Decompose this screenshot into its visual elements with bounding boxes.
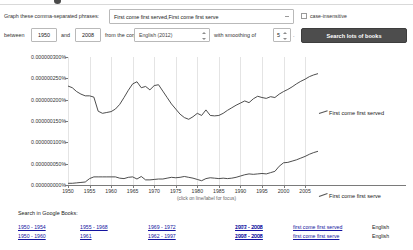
date-range-link[interactable]: 1955 - 1968: [80, 224, 108, 230]
smoothing-spinner-icon[interactable]: [283, 32, 287, 40]
phrase-link[interactable]: first come first serve: [293, 233, 339, 239]
corpus-select-value: English (2012): [139, 29, 172, 42]
date-range-link[interactable]: 1950 - 1954: [18, 224, 46, 230]
smoothing-suffix: .: [293, 28, 295, 42]
series-line-0[interactable]: [68, 74, 318, 120]
search-in-books-heading: Search in Google Books:: [18, 210, 78, 216]
language-label: English: [372, 233, 389, 239]
language-label: English: [372, 224, 389, 230]
and-label: and: [61, 28, 70, 42]
phrases-label: Graph these comma-separated phrases:: [4, 9, 99, 24]
chart-caption: (click on line/label for focus): [0, 196, 413, 201]
date-range-link[interactable]: 1950 - 1960: [18, 233, 46, 239]
query-form: Graph these comma-separated phrases: Fir…: [0, 5, 413, 45]
phrases-input[interactable]: First come first served,First come first…: [109, 9, 294, 24]
year-end-input[interactable]: 2008: [75, 28, 101, 42]
ngram-viewer-page: Graph these comma-separated phrases: Fir…: [0, 0, 413, 250]
corpus-select[interactable]: English (2012): [134, 28, 210, 42]
search-button[interactable]: Search lots of books: [301, 28, 407, 43]
date-range-link[interactable]: 1969 - 1972: [148, 224, 176, 230]
smoothing-label: with smoothing of: [214, 28, 256, 42]
smoothing-value: 5: [277, 29, 280, 42]
case-insensitive-checkbox[interactable]: [301, 13, 307, 19]
phrases-input-value: First come first served,First come first…: [114, 10, 219, 25]
form-row-options: between 1950 and 2008 from the corpus En…: [0, 28, 413, 43]
phrases-input-caret: [285, 16, 289, 17]
year-start-input[interactable]: 1950: [31, 28, 57, 42]
year-end-value: 2008: [76, 29, 100, 42]
ngram-chart[interactable]: 0.000000000%0.000000050%0.000000100%0.00…: [0, 48, 413, 208]
smoothing-select[interactable]: 5: [273, 28, 291, 42]
case-insensitive-label: case-insensitive: [310, 11, 347, 21]
corpus-spinner-icon[interactable]: [202, 32, 206, 40]
search-button-label: Search lots of books: [302, 29, 406, 43]
form-row-phrases: Graph these comma-separated phrases: Fir…: [0, 9, 413, 24]
series-label-0[interactable]: First come first served: [329, 110, 384, 116]
date-range-link[interactable]: 2007 - 2008: [235, 224, 263, 230]
between-label: between: [4, 28, 24, 42]
date-range-link[interactable]: 2007 - 2008: [235, 233, 263, 239]
phrase-link[interactable]: first come first served: [293, 224, 342, 230]
chart-plot-area[interactable]: [0, 48, 413, 208]
date-range-link[interactable]: 1961: [80, 233, 92, 239]
date-range-link[interactable]: 1962 - 1997: [148, 233, 176, 239]
series-line-1[interactable]: [68, 151, 318, 183]
google-books-search: Search in Google Books: 1950 - 19541955 …: [0, 206, 413, 250]
year-start-value: 1950: [32, 29, 56, 42]
